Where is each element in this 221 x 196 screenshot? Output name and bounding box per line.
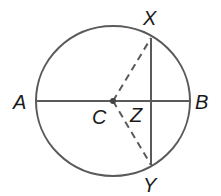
- label-a: A: [12, 91, 26, 113]
- label-b: B: [195, 91, 208, 113]
- circle-diagram: A B C Z X Y: [0, 0, 221, 196]
- label-c: C: [92, 106, 107, 128]
- label-x: X: [142, 7, 157, 29]
- label-y: Y: [143, 174, 158, 196]
- label-z: Z: [129, 104, 143, 126]
- segment-cx-dashed: [113, 38, 151, 101]
- center-point: [110, 98, 116, 104]
